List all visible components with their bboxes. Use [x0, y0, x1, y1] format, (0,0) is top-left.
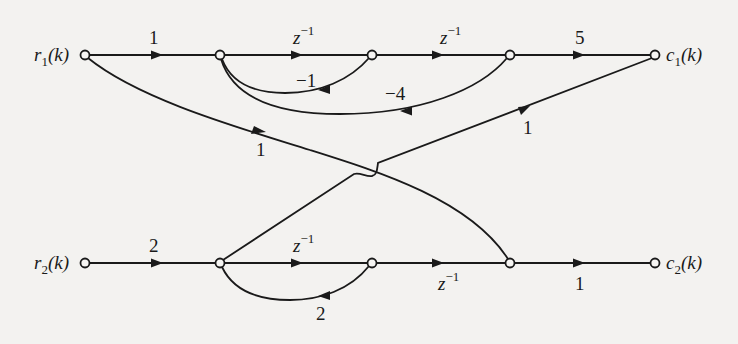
- arrow-icon: [318, 291, 330, 300]
- branch-m3-c2: [514, 259, 651, 268]
- branch-n3-c1: [514, 51, 651, 60]
- gain-r1-m3: 1: [256, 139, 266, 160]
- node-n3: [506, 51, 515, 60]
- gain-m1-m2: z−1: [292, 231, 314, 256]
- branch-m1-m2: [224, 259, 368, 268]
- node-r2: [81, 259, 90, 268]
- gain-m3-c2: 1: [575, 273, 585, 294]
- gain-feedback-n2-n1: −1: [296, 70, 316, 91]
- gain-n1-n2: z−1: [292, 23, 314, 48]
- node-r1: [81, 51, 90, 60]
- node-c1: [651, 51, 660, 60]
- branch-n1-n2: [224, 51, 368, 60]
- arrow-icon: [251, 126, 266, 134]
- node-n1: [216, 51, 225, 60]
- arrow-icon: [432, 259, 444, 268]
- arrow-icon: [518, 106, 530, 115]
- arrow-icon: [573, 259, 585, 268]
- label-r2: r2(k): [34, 252, 69, 277]
- gain-n3-c1: 5: [575, 27, 585, 48]
- gain-m1-c1: 1: [523, 117, 533, 138]
- branch-n2-n3: [376, 51, 506, 60]
- gain-feedback-m2-m1: 2: [316, 303, 326, 324]
- label-r1: r1(k): [34, 44, 69, 69]
- gain-r1-n1: 1: [149, 27, 159, 48]
- gain-r2-m1: 2: [149, 235, 159, 256]
- arrow-icon: [151, 51, 163, 60]
- node-m2: [368, 259, 377, 268]
- arrow-icon: [151, 259, 163, 268]
- node-c2: [651, 259, 660, 268]
- node-m1: [216, 259, 225, 268]
- branch-m2-m3: [376, 259, 506, 268]
- branch-r1-n1: [90, 51, 216, 60]
- arrow-icon: [573, 51, 585, 60]
- branch-m1-c1: [223, 58, 652, 260]
- gain-n2-n3: z−1: [439, 23, 461, 48]
- gain-feedback-n3-n1: −4: [385, 83, 406, 104]
- arrow-icon: [291, 51, 303, 60]
- label-c2: c2(k): [666, 252, 702, 277]
- feedback-n3-n1: [221, 58, 507, 116]
- feedback-m2-m1: [222, 266, 369, 300]
- branch-r2-m1: [90, 259, 216, 268]
- gain-m2-m3: z−1: [437, 269, 459, 294]
- signal-flow-graph: r1(k) r2(k) c1(k) c2(k) 1 z−1 z−1 5 −1 −…: [0, 0, 738, 344]
- node-n2: [368, 51, 377, 60]
- node-m3: [506, 259, 515, 268]
- arrow-icon: [432, 51, 444, 60]
- arrow-icon: [291, 259, 303, 268]
- label-c1: c1(k): [666, 44, 702, 69]
